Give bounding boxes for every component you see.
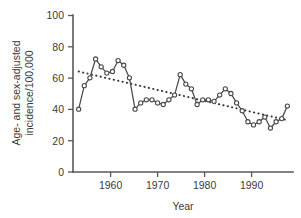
data-point-marker <box>280 117 284 121</box>
data-point-marker <box>110 69 114 73</box>
y-tick-label-0: 0 <box>58 166 64 178</box>
data-point-marker <box>116 58 120 62</box>
data-point-marker <box>88 76 92 80</box>
plot-area <box>77 57 290 130</box>
data-point-marker <box>212 99 216 103</box>
data-point-marker <box>133 107 137 111</box>
y-axis-title-line2: incidence/100,000 <box>23 50 35 135</box>
x-tick-label-1990: 1990 <box>240 179 264 191</box>
data-point-marker <box>144 98 148 102</box>
y-axis-title-line1: Age- and sex-adjusted <box>10 40 22 145</box>
data-point-marker <box>93 57 97 61</box>
data-point-marker <box>178 73 182 77</box>
data-point-marker <box>285 104 289 108</box>
data-point-marker <box>172 93 176 97</box>
data-point-marker <box>251 123 255 127</box>
data-point-marker <box>161 102 165 106</box>
data-point-marker <box>263 115 267 119</box>
data-point-marker <box>150 98 154 102</box>
y-axis-group: 100 80 60 40 20 0 Age- and sex-adjusted … <box>10 9 73 178</box>
x-tick-label-1980: 1980 <box>193 179 217 191</box>
data-point-marker <box>82 84 86 88</box>
data-point-marker <box>167 98 171 102</box>
x-tick-label-1960: 1960 <box>99 179 123 191</box>
x-axis-title: Year <box>172 200 194 212</box>
y-tick-label-80: 80 <box>52 41 64 53</box>
data-point-marker <box>246 120 250 124</box>
data-point-marker <box>77 107 81 111</box>
data-point-marker <box>268 126 272 130</box>
data-point-marker <box>257 120 261 124</box>
data-point-marker <box>139 101 143 105</box>
data-point-marker <box>156 101 160 105</box>
x-axis-group: 1960 1970 1980 1990 Year <box>73 172 293 212</box>
data-point-marker <box>184 82 188 86</box>
data-point-marker <box>274 120 278 124</box>
data-point-marker <box>201 98 205 102</box>
data-point-marker <box>189 87 193 91</box>
y-tick-label-20: 20 <box>52 135 64 147</box>
data-point-marker <box>229 91 233 95</box>
x-tick-label-1970: 1970 <box>146 179 170 191</box>
data-point-marker <box>105 71 109 75</box>
y-tick-label-60: 60 <box>52 72 64 84</box>
data-point-marker <box>223 87 227 91</box>
data-point-marker <box>240 109 244 113</box>
data-point-marker <box>99 65 103 69</box>
data-point-marker <box>234 101 238 105</box>
y-tick-label-100: 100 <box>46 9 64 21</box>
chart-container: 100 80 60 40 20 0 Age- and sex-adjusted … <box>0 0 301 218</box>
data-point-marker <box>218 93 222 97</box>
data-point-marker <box>122 63 126 67</box>
data-point-markers <box>77 57 290 130</box>
y-tick-label-40: 40 <box>52 103 64 115</box>
incidence-trend-chart: 100 80 60 40 20 0 Age- and sex-adjusted … <box>0 0 301 218</box>
incidence-line-series <box>79 59 288 128</box>
data-point-marker <box>206 98 210 102</box>
data-point-marker <box>127 76 131 80</box>
data-point-marker <box>195 102 199 106</box>
